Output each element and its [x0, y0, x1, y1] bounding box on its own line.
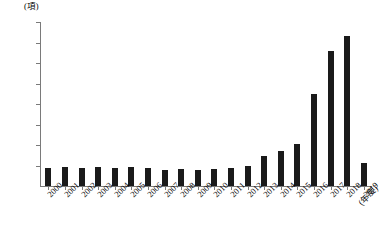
bar [145, 168, 151, 186]
bar [211, 169, 217, 186]
y-axis-unit-label: (項) [24, 1, 39, 11]
bar [278, 151, 284, 186]
bar [344, 36, 350, 186]
bar [261, 156, 267, 186]
bar [245, 166, 251, 187]
bar [328, 51, 334, 186]
bar [95, 167, 101, 186]
bar [228, 168, 234, 186]
bar [195, 170, 201, 186]
bar [128, 167, 134, 186]
bar [45, 168, 51, 186]
bar-chart: (項) 8,0007,0006,0005,0004,0003,0002,0001… [0, 0, 389, 235]
bar [361, 163, 367, 186]
bar [62, 167, 68, 186]
bar [162, 170, 168, 186]
bar [178, 169, 184, 186]
bar [79, 168, 85, 186]
bar [294, 144, 300, 186]
bar [311, 94, 317, 186]
plot-area [40, 22, 372, 186]
bar [112, 168, 118, 186]
